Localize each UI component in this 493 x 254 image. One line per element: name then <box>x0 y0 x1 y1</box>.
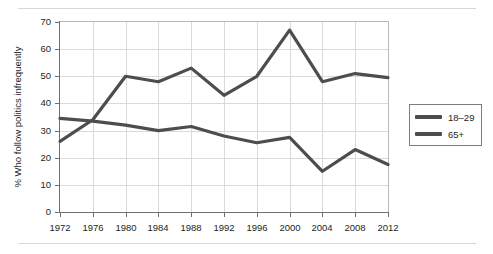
legend-entry-65-plus[interactable]: 65+ <box>415 128 464 140</box>
x-tick-label: 1996 <box>241 222 273 233</box>
plot-frame-right <box>388 21 389 213</box>
x-tick-mark <box>224 212 225 217</box>
x-tick-label: 1976 <box>77 222 109 233</box>
x-tick-mark <box>93 212 94 217</box>
y-tick-label: 50 <box>40 71 51 81</box>
y-tick-label: 20 <box>40 153 51 163</box>
series-line <box>60 118 388 171</box>
plot-area: 010203040506070 197219761980198419881992… <box>60 22 388 212</box>
x-tick-mark <box>388 212 389 217</box>
x-tick-mark <box>290 212 291 217</box>
x-tick-label: 1980 <box>110 222 142 233</box>
x-tick-mark <box>60 212 61 217</box>
bottom-divider-rule <box>18 243 476 244</box>
legend-label: 18–29 <box>448 112 474 123</box>
x-tick-label: 1992 <box>208 222 240 233</box>
y-tick-label: 30 <box>40 126 51 136</box>
x-tick-label: 2008 <box>339 222 371 233</box>
x-tick-mark <box>191 212 192 217</box>
y-axis-label: % Who follow politics infrequently <box>11 22 25 212</box>
series-line <box>60 30 388 141</box>
legend-entry-18-29[interactable]: 18–29 <box>415 111 474 123</box>
x-tick-mark <box>257 212 258 217</box>
x-tick-label: 2000 <box>274 222 306 233</box>
y-tick-label: 10 <box>40 180 51 190</box>
chart-legend: 18–29 65+ <box>409 104 482 146</box>
y-tick-label: 70 <box>40 17 51 27</box>
x-tick-label: 2012 <box>372 222 404 233</box>
x-tick-mark <box>158 212 159 217</box>
x-tick-mark <box>322 212 323 217</box>
legend-swatch-line-icon <box>415 115 442 119</box>
x-tick-mark <box>355 212 356 217</box>
y-tick-label: 40 <box>40 98 51 108</box>
x-tick-label: 2004 <box>306 222 338 233</box>
x-tick-label: 1984 <box>142 222 174 233</box>
x-tick-label: 1972 <box>44 222 76 233</box>
legend-swatch-line-icon <box>415 132 442 136</box>
series-lines <box>60 22 388 212</box>
y-tick-label: 60 <box>40 44 51 54</box>
x-tick-mark <box>126 212 127 217</box>
x-tick-label: 1988 <box>175 222 207 233</box>
y-tick-label: 0 <box>46 207 51 217</box>
legend-label: 65+ <box>448 129 464 140</box>
top-divider-rule <box>18 8 476 9</box>
chart-figure: % Who follow politics infrequently 01020… <box>0 0 493 254</box>
